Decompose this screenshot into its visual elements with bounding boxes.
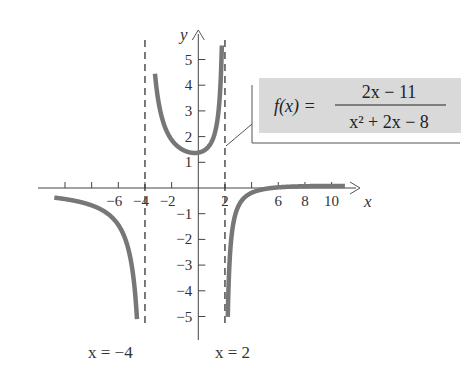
function-lhs: f(x) =: [274, 96, 316, 117]
asymptote-label: x = −4: [88, 343, 133, 362]
x-tick-label: −2: [160, 193, 176, 209]
y-tick-label: −3: [176, 257, 192, 273]
y-tick-label: 3: [185, 103, 193, 119]
function-denominator: x² + 2x − 8: [349, 112, 429, 132]
y-tick-label: 1: [185, 154, 193, 170]
curve-branch-1: [54, 198, 137, 319]
asymptote-labels: x = −4x = 2: [88, 343, 250, 362]
function-numerator: 2x − 11: [362, 82, 416, 102]
x-tick-label: 8: [301, 193, 309, 209]
x-tick-label: −6: [106, 193, 122, 209]
asymptote-label: x = 2: [215, 343, 250, 362]
y-tick-label: −1: [176, 206, 192, 222]
y-axis-label: y: [178, 25, 188, 44]
y-tick-label: 5: [185, 52, 193, 68]
y-tick-label: 4: [185, 77, 193, 93]
x-axis-label: x: [363, 192, 372, 211]
rational-function-graph: f(x) = 2x − 11 x² + 2x − 8 x y −6−4−2268…: [0, 0, 475, 371]
y-tick-label: 2: [185, 129, 193, 145]
x-tick-label: −4: [133, 193, 149, 209]
x-tick-label: 10: [324, 193, 339, 209]
axes: x y: [38, 25, 372, 340]
x-tick-label: 6: [275, 193, 283, 209]
label-pointer-line: [226, 124, 252, 146]
function-label-box: f(x) = 2x − 11 x² + 2x − 8: [226, 78, 461, 146]
y-tick-label: −4: [176, 283, 192, 299]
y-tick-label: −2: [176, 231, 192, 247]
y-tick-label: −5: [176, 309, 192, 325]
